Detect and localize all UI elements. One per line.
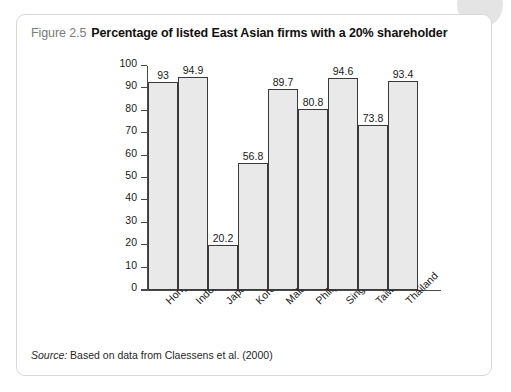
- bar[interactable]: 94.6: [328, 78, 358, 290]
- bar-value-label: 89.7: [273, 76, 293, 88]
- y-axis-tick: 20: [141, 244, 147, 245]
- y-axis-tick-label: 40: [125, 191, 137, 203]
- y-axis-tick-label: 30: [125, 214, 137, 226]
- y-axis-tick: 30: [141, 222, 147, 223]
- y-axis-tick-label: 70: [125, 124, 137, 136]
- figure-title: Figure 2.5Percentage of listed East Asia…: [31, 26, 447, 40]
- y-axis-tick: 0: [141, 289, 147, 290]
- bar-slot: 80.8Philippines: [298, 66, 328, 290]
- y-axis-tick-label: 10: [125, 259, 137, 271]
- y-axis-tick-label: 100: [119, 57, 137, 69]
- bar-slot: 94.6Singapore: [328, 66, 358, 290]
- bar-chart: 1009080706050403020100 93Hong Kong94.9In…: [31, 51, 479, 323]
- bar[interactable]: 93: [148, 82, 178, 290]
- y-axis-tick-label: 90: [125, 79, 137, 91]
- bar-value-label: 94.9: [183, 64, 203, 76]
- bar-value-label: 20.2: [213, 232, 233, 244]
- y-axis-tick-label: 80: [125, 102, 137, 114]
- bar[interactable]: 80.8: [298, 109, 328, 290]
- plot-area: 1009080706050403020100 93Hong Kong94.9In…: [147, 66, 419, 290]
- bar-slot: 93Hong Kong: [148, 66, 178, 290]
- bar-value-label: 93.4: [393, 68, 413, 80]
- y-axis-tick: 10: [141, 267, 147, 268]
- y-axis-tick: 100: [141, 65, 147, 66]
- bar-value-label: 56.8: [243, 150, 263, 162]
- bar-slot: 73.8Taiwan: [358, 66, 388, 290]
- bar-value-label: 73.8: [363, 112, 383, 124]
- bar-value-label: 94.6: [333, 65, 353, 77]
- y-axis-tick-label: 60: [125, 147, 137, 159]
- y-axis-tick: 70: [141, 132, 147, 133]
- figure-title-text: Percentage of listed East Asian firms wi…: [91, 26, 447, 40]
- y-axis-tick: 40: [141, 199, 147, 200]
- y-axis-tick-label: 20: [125, 236, 137, 248]
- bar[interactable]: 20.2: [208, 245, 238, 290]
- bar-slot: 89.7Malaysia: [268, 66, 298, 290]
- bar-value-label: 93: [157, 69, 169, 81]
- bar[interactable]: 56.8: [238, 163, 268, 290]
- figure-panel: Figure 2.5Percentage of listed East Asia…: [16, 14, 492, 376]
- y-axis-tick: 60: [141, 155, 147, 156]
- y-axis-tick: 80: [141, 110, 147, 111]
- bar-slot: 94.9Indonesia: [178, 66, 208, 290]
- source-text: Based on data from Claessens et al. (200…: [70, 349, 273, 361]
- y-axis-tick: 50: [141, 177, 147, 178]
- y-axis-tick: 90: [141, 87, 147, 88]
- bar[interactable]: 93.4: [388, 81, 418, 290]
- bar-slot: 93.4Thailand: [388, 66, 418, 290]
- figure-number: Figure 2.5: [31, 26, 86, 40]
- bar-slot: 20.2Japan: [208, 66, 238, 290]
- bar-value-label: 80.8: [303, 96, 323, 108]
- source-label: Source:: [31, 349, 67, 361]
- y-axis-tick-label: 50: [125, 169, 137, 181]
- bar-slot: 56.8Korea: [238, 66, 268, 290]
- bar[interactable]: 94.9: [178, 77, 208, 290]
- source-note: Source: Based on data from Claessens et …: [31, 349, 273, 361]
- bar[interactable]: 89.7: [268, 89, 298, 290]
- bar-series: 93Hong Kong94.9Indonesia20.2Japan56.8Kor…: [148, 66, 418, 290]
- bar[interactable]: 73.8: [358, 125, 388, 290]
- y-axis-tick-label: 0: [131, 281, 137, 293]
